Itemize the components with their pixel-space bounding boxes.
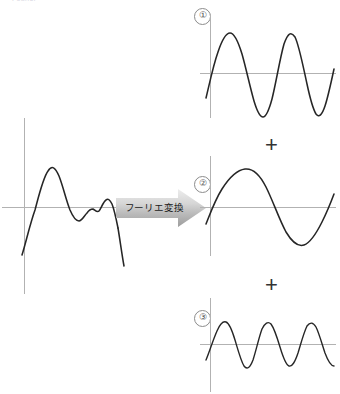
fourier-transform-arrow: フーリエ変換 — [112, 186, 210, 230]
component-1-plot — [200, 14, 338, 118]
plus-operator-2: + — [265, 274, 278, 296]
fourier-transform-figure: Fourier フーリエ変換 ① — [0, 0, 340, 394]
component-1-curve — [206, 33, 334, 117]
composite-waveform-curve — [22, 168, 118, 255]
composite-waveform-plot — [2, 118, 130, 294]
fourier-transform-label: フーリエ変換 — [120, 200, 188, 214]
top-caption: Fourier — [12, 0, 36, 2]
component-2-plot — [200, 156, 338, 256]
composite-waveform-curve-tail — [118, 228, 124, 266]
component-3-plot — [200, 298, 338, 392]
plus-operator-1: + — [265, 134, 278, 156]
